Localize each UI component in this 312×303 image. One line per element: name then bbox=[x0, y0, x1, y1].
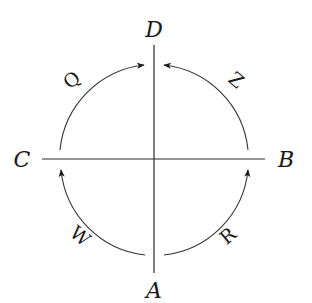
arc-label-lower-right: R bbox=[215, 222, 241, 248]
point-label-right: B bbox=[277, 147, 294, 172]
arc-label-upper-right: Z bbox=[224, 67, 248, 92]
point-label-left: C bbox=[14, 147, 31, 172]
point-label-bottom: A bbox=[144, 278, 162, 303]
arc-label-lower-left: W bbox=[66, 221, 95, 251]
quadrant-diagram: D A C B Q Z W R bbox=[0, 0, 312, 303]
point-label-top: D bbox=[144, 17, 163, 42]
arc-label-upper-left: Q bbox=[58, 66, 84, 93]
